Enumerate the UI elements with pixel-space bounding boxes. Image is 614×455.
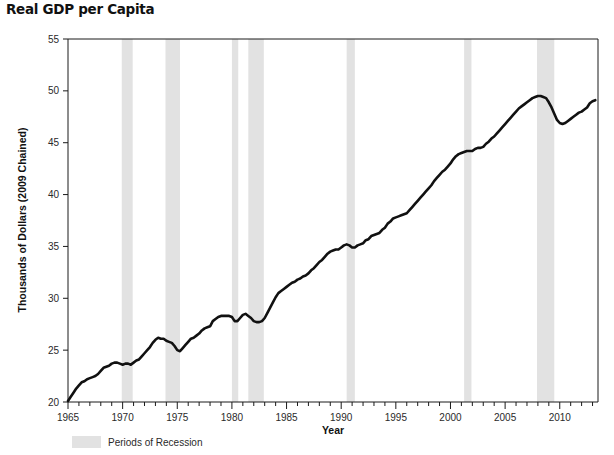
y-axis-tick-label: 45 xyxy=(48,137,60,148)
y-axis-tick-label: 25 xyxy=(48,345,60,356)
x-axis-tick-label: 2000 xyxy=(439,412,462,423)
recession-band xyxy=(122,39,133,402)
y-axis-tick-label: 20 xyxy=(48,397,60,408)
recession-band xyxy=(165,39,180,402)
chart-figure: Real GDP per Capita 2025303540455055 196… xyxy=(0,0,614,455)
x-axis-tick-label: 1965 xyxy=(57,412,80,423)
legend-swatch-recession xyxy=(72,436,101,448)
x-axis-tick-label: 2005 xyxy=(494,412,517,423)
x-axis-title: Year xyxy=(322,424,344,436)
recession-band xyxy=(232,39,238,402)
recession-band xyxy=(464,39,471,402)
y-axis: 2025303540455055 xyxy=(48,34,68,408)
x-axis-tick-label: 2010 xyxy=(549,412,572,423)
y-axis-tick-label: 35 xyxy=(48,241,60,252)
x-axis-tick-label: 1995 xyxy=(385,412,408,423)
x-axis: 1965197019751980198519901995200020052010 xyxy=(57,402,593,423)
y-axis-tick-label: 40 xyxy=(48,189,60,200)
recession-band xyxy=(347,39,355,402)
x-axis-tick-label: 1980 xyxy=(221,412,244,423)
plot-background xyxy=(68,39,598,402)
chart-legend: Periods of Recession xyxy=(72,436,203,448)
x-axis-tick-label: 1970 xyxy=(112,412,135,423)
x-axis-tick-label: 1975 xyxy=(166,412,189,423)
y-axis-tick-label: 55 xyxy=(48,34,60,45)
y-axis-tick-label: 50 xyxy=(48,85,60,96)
x-axis-tick-label: 1985 xyxy=(275,412,298,423)
x-axis-tick-label: 1990 xyxy=(330,412,353,423)
y-axis-tick-label: 30 xyxy=(48,293,60,304)
recession-band xyxy=(537,39,554,402)
gdp-line-chart: 2025303540455055 19651970197519801985199… xyxy=(0,0,614,455)
recession-band xyxy=(248,39,264,402)
legend-label-recession: Periods of Recession xyxy=(108,437,203,448)
y-axis-title: Thousands of Dollars (2009 Chained) xyxy=(16,128,28,313)
